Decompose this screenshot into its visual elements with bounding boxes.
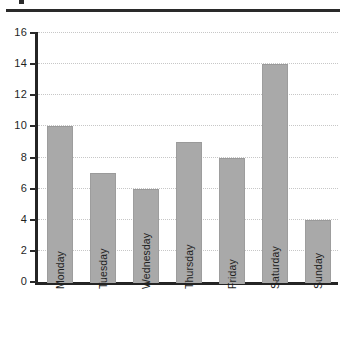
y-axis-tick-label: 12 <box>0 89 27 100</box>
x-axis-label: Monday <box>55 251 66 289</box>
y-axis-tick <box>30 125 36 127</box>
y-axis-tick <box>30 250 36 252</box>
y-axis-tick <box>30 32 36 34</box>
y-axis-tick <box>30 157 36 159</box>
x-axis-label: Wednesday <box>141 233 152 289</box>
gridline <box>38 125 338 126</box>
gridline <box>38 94 338 95</box>
gridline <box>38 63 338 64</box>
y-axis-tick-label: 4 <box>0 214 27 225</box>
y-axis-tick <box>30 219 36 221</box>
y-axis-tick-label: 10 <box>0 120 27 131</box>
x-axis-label: Sunday <box>313 253 324 289</box>
chart-figure: 0246810121416 MondayTuesdayWednesdayThur… <box>0 0 346 353</box>
y-axis-tick-label: 16 <box>0 27 27 38</box>
y-axis-tick-label: 14 <box>0 58 27 69</box>
y-axis-line <box>35 32 38 285</box>
x-axis-label: Saturday <box>270 246 281 289</box>
y-axis-tick-label: 8 <box>0 152 27 163</box>
y-axis-tick <box>30 281 36 283</box>
y-axis-tick <box>30 94 36 96</box>
gridline <box>38 32 338 33</box>
y-axis-tick-label: 0 <box>0 276 27 287</box>
y-axis-tick-label: 2 <box>0 245 27 256</box>
x-axis-label: Thursday <box>184 244 195 289</box>
y-axis-tick-label: 6 <box>0 183 27 194</box>
y-axis-tick <box>30 188 36 190</box>
plot-area: 0246810121416 MondayTuesdayWednesdayThur… <box>0 0 346 353</box>
x-axis-label: Tuesday <box>98 248 109 289</box>
x-axis-label: Friday <box>227 259 238 289</box>
y-axis-tick <box>30 63 36 65</box>
